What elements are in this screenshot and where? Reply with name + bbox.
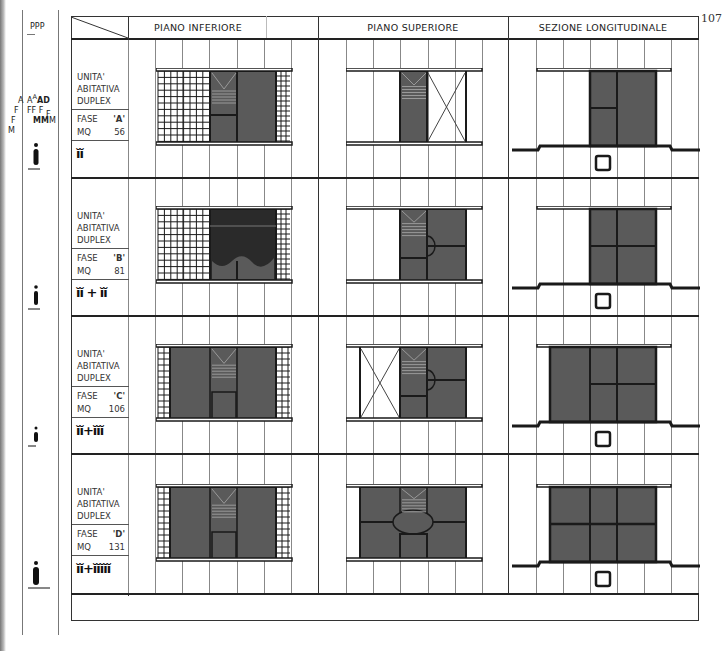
grid-line — [128, 40, 129, 595]
mq-value: 131 — [109, 541, 125, 553]
mq-line: MQ106 — [77, 403, 125, 415]
unit-title-1: UNITA' — [77, 348, 105, 360]
row-separator-3 — [71, 453, 699, 455]
unit-title-3: DUPLEX — [77, 510, 111, 522]
occupants-icons: ĭĭ — [76, 148, 83, 160]
piano-superiore-c — [346, 344, 484, 424]
mq-line: MQ131 — [77, 541, 125, 553]
legend-ppp: PPP — [30, 22, 44, 31]
legend-tick — [27, 34, 35, 35]
row-label-a: UNITA' ABITATIVA DUPLEX FASE'A' MQ56 ĭĭ — [72, 40, 128, 178]
unit-title-1: UNITA' — [77, 486, 105, 498]
label-divider — [72, 279, 129, 280]
header-piano-inferiore: PIANO INFERIORE — [128, 16, 268, 38]
margin-person-icon-2 — [26, 282, 46, 322]
margin-person-icon-4 — [26, 558, 56, 598]
piano-inferiore-c — [156, 344, 294, 424]
row-separator-2 — [71, 315, 699, 317]
header-bottom-border — [71, 38, 699, 40]
piano-superiore-b — [346, 206, 484, 286]
row-separator-1 — [71, 177, 699, 179]
fase-value: 'A' — [113, 113, 125, 125]
margin-line-2 — [58, 10, 59, 635]
piano-superiore-d — [346, 484, 484, 564]
label-divider — [72, 524, 129, 525]
piano-inferiore-d — [156, 484, 294, 564]
row-separator-4 — [71, 593, 699, 595]
piano-inferiore-a — [156, 68, 294, 148]
occupants-icons: ĭĭ+ĭĭĭ — [76, 425, 103, 437]
margin-person-icon-3 — [26, 422, 46, 462]
sezione-longitudinale-d — [510, 484, 702, 592]
page-binding-shadow — [0, 0, 6, 651]
grid-line — [318, 40, 319, 595]
legend-letters-right: AAAD FF F F MMM — [27, 92, 57, 126]
fase-line: FASE'A' — [77, 113, 125, 125]
sezione-longitudinale-c — [510, 344, 702, 452]
mq-value: 56 — [114, 126, 125, 138]
unit-title-3: DUPLEX — [77, 372, 111, 384]
header-piano-superiore: PIANO SUPERIORE — [318, 16, 508, 38]
unit-title-2: ABITATIVA — [77, 360, 120, 372]
piano-superiore-a — [346, 68, 484, 148]
fase-line: FASE'B' — [77, 252, 125, 264]
header-sezione-longitudinale: SEZIONE LONGITUDINALE — [508, 16, 698, 38]
occupants-icons: ĭĭ+ĭĭĭĭĭ — [76, 563, 110, 575]
unit-title-3: DUPLEX — [77, 234, 111, 246]
unit-title-2: ABITATIVA — [77, 498, 120, 510]
fase-line: FASE'D' — [77, 528, 125, 540]
header-diagonal-cell — [71, 16, 128, 40]
row-label-d: UNITA' ABITATIVA DUPLEX FASE'D' MQ131 ĭĭ… — [72, 455, 128, 593]
mq-value: 81 — [114, 265, 125, 277]
unit-title-1: UNITA' — [77, 210, 105, 222]
page-number: 107 — [701, 12, 722, 25]
label-divider — [72, 417, 129, 418]
fase-value: 'B' — [113, 252, 125, 264]
label-divider — [72, 140, 129, 141]
unit-title-2: ABITATIVA — [77, 83, 120, 95]
mq-line: MQ81 — [77, 265, 125, 277]
mq-value: 106 — [109, 403, 125, 415]
occupants-icons: ĭĭ + ĭĭ — [76, 287, 107, 299]
sezione-longitudinale-a — [510, 68, 702, 176]
label-divider — [72, 555, 129, 556]
table-bottom-border — [71, 620, 699, 621]
row-label-c: UNITA' ABITATIVA DUPLEX FASE'C' MQ106 ĭĭ… — [72, 317, 128, 455]
fase-value: 'C' — [114, 390, 125, 402]
label-divider — [72, 109, 129, 110]
piano-inferiore-b — [156, 206, 294, 286]
label-divider — [72, 386, 129, 387]
row-label-b: UNITA' ABITATIVA DUPLEX FASE'B' MQ81 ĭĭ … — [72, 179, 128, 317]
unit-title-3: DUPLEX — [77, 95, 111, 107]
margin-person-icon-1 — [26, 140, 46, 180]
label-divider — [72, 248, 129, 249]
grid-line — [508, 40, 509, 595]
unit-title-2: ABITATIVA — [77, 222, 120, 234]
fase-line: FASE'C' — [77, 390, 125, 402]
unit-title-1: UNITA' — [77, 71, 105, 83]
mq-line: MQ56 — [77, 126, 125, 138]
legend-letters-left: A F F M — [8, 96, 23, 136]
fase-value: 'D' — [113, 528, 125, 540]
sezione-longitudinale-b — [510, 206, 702, 314]
